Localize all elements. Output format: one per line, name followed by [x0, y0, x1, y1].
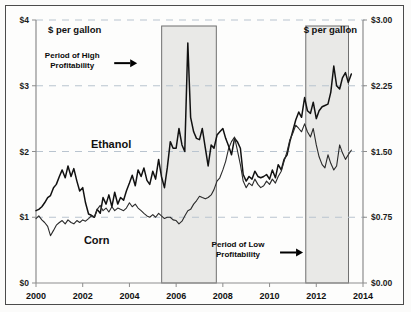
- high-profitability-annotation-line2: Profitability: [50, 61, 95, 70]
- chart-figure: $0$1$2$3$4$0.00$0.75$1.50$2.25$3.0020002…: [0, 0, 411, 312]
- x-tick-label: 2006: [166, 291, 186, 301]
- x-tick-label: 2004: [119, 291, 139, 301]
- y-tick-label-right: $1.50: [371, 147, 393, 157]
- right-unit-label: $ per gallon: [304, 24, 358, 35]
- x-tick-label: 2000: [26, 291, 46, 301]
- x-tick-label: 2014: [353, 291, 373, 301]
- y-tick-label-right: $0.00: [371, 278, 393, 288]
- high-profitability-annotation-line1: Period of High: [45, 51, 100, 60]
- y-tick-label-left: $4: [20, 15, 30, 25]
- y-tick-label-right: $3.00: [371, 15, 393, 25]
- y-tick-label-left: $3: [20, 81, 30, 91]
- y-tick-label-right: $0.75: [371, 212, 393, 222]
- y-tick-label-left: $2: [20, 147, 30, 157]
- series-label-ethanol: Ethanol: [91, 138, 131, 150]
- y-tick-label-right: $2.25: [371, 81, 393, 91]
- low-profitability-band: [306, 26, 349, 283]
- y-tick-label-left: $1: [20, 212, 30, 222]
- low-profitability-annotation-line2: Profitability: [216, 250, 261, 259]
- series-label-corn: Corn: [84, 234, 110, 246]
- high-profitability-annotation-arrow-head: [130, 59, 137, 67]
- x-tick-label: 2002: [73, 291, 93, 301]
- price-chart-svg: $0$1$2$3$4$0.00$0.75$1.50$2.25$3.0020002…: [0, 0, 411, 312]
- x-tick-label: 2010: [260, 291, 280, 301]
- x-tick-label: 2012: [306, 291, 326, 301]
- low-profitability-annotation-line1: Period of Low: [212, 240, 266, 249]
- x-tick-label: 2008: [213, 291, 233, 301]
- y-tick-label-left: $0: [20, 278, 30, 288]
- low-profitability-annotation-arrow-head: [296, 248, 303, 256]
- left-unit-label: $ per gallon: [48, 24, 102, 35]
